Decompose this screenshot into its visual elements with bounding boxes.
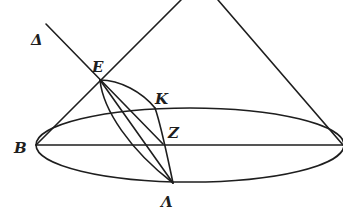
cone-diagram: Δ E K B Z Λ — [0, 0, 343, 223]
line-delta-z — [46, 24, 163, 144]
arc-e-k — [100, 80, 155, 108]
label-k: K — [154, 90, 169, 108]
label-z: Z — [167, 124, 180, 142]
label-e: E — [91, 58, 104, 76]
label-lambda: Λ — [159, 193, 173, 211]
label-delta: Δ — [30, 31, 43, 49]
label-b: B — [13, 139, 27, 157]
cone-right-generator — [218, 0, 343, 145]
